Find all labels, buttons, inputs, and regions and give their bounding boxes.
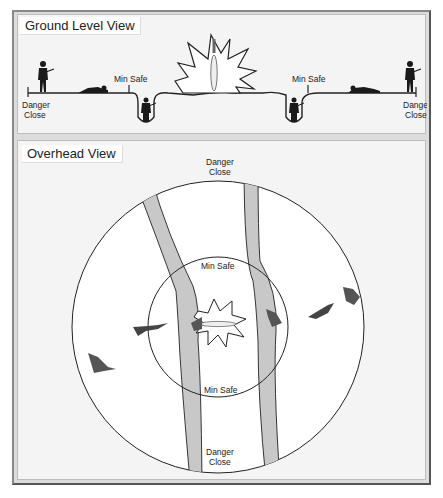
- overhead-view-title: Overhead View: [22, 145, 123, 163]
- bomb-overhead-icon: [200, 321, 236, 326]
- overhead-diagram: Danger Close Min Safe Min Safe Danger Cl…: [18, 141, 427, 481]
- ground-profile-line: [28, 92, 416, 122]
- ground-level-view-panel: Danger Close Min Safe Min Safe Danger Cl…: [17, 14, 426, 134]
- min-safe-bottom-label: Min Safe: [204, 385, 238, 395]
- min-safe-top-label: Min Safe: [201, 261, 235, 271]
- danger-close-left-label-2: Close: [24, 110, 46, 120]
- danger-close-bottom-label: Danger: [206, 447, 234, 457]
- standing-soldier-right-icon: [405, 61, 421, 92]
- min-safe-right-label: Min Safe: [292, 74, 326, 84]
- bomb-icon: [211, 55, 217, 91]
- prone-soldier-right-icon: [348, 86, 380, 94]
- ground-level-view-title: Ground Level View: [20, 17, 141, 35]
- danger-close-right-label: Danger: [403, 100, 427, 110]
- diagram-frame: Danger Close Min Safe Min Safe Danger Cl…: [12, 10, 431, 485]
- prone-soldier-left-icon: [78, 86, 108, 94]
- danger-close-top-label-2: Close: [209, 167, 231, 177]
- danger-close-left-label: Danger: [22, 100, 50, 110]
- overhead-view-panel: Danger Close Min Safe Min Safe Danger Cl…: [17, 140, 426, 480]
- explosion-icon: [175, 35, 256, 93]
- danger-close-right-label-2: Close: [405, 110, 427, 120]
- min-safe-left-label: Min Safe: [114, 74, 148, 84]
- bomb-fin-icon: [213, 39, 216, 53]
- danger-close-bottom-label-2: Close: [209, 457, 231, 467]
- standing-soldier-left-icon: [38, 61, 54, 92]
- danger-close-top-label: Danger: [206, 157, 234, 167]
